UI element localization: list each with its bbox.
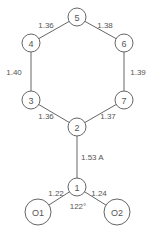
bond-2-3-length: 1.36 xyxy=(38,112,54,121)
bond-1-2-length: 1.53 A xyxy=(81,153,104,162)
atom-7-label: 7 xyxy=(121,96,126,106)
atom-6-label: 6 xyxy=(121,39,126,49)
bond-3-4-length: 1.40 xyxy=(6,68,22,77)
angle-1-label: 122° xyxy=(70,202,87,211)
atom-o1: O1 xyxy=(25,199,51,225)
bond-4-5-length: 1.36 xyxy=(38,21,54,30)
bond-5-6-length: 1.38 xyxy=(97,21,113,30)
atom-1: 1 xyxy=(68,178,86,196)
molecular-structure-diagram: 5 4 6 3 7 2 1 O1 O2 1.36 1.38 1.40 1.39 … xyxy=(0,0,153,236)
atom-2: 2 xyxy=(68,118,86,136)
atom-2-label: 2 xyxy=(74,123,79,133)
atom-o1-label: O1 xyxy=(32,208,44,218)
bond-1-o2-length: 1.24 xyxy=(91,189,107,198)
diagram-canvas: 5 4 6 3 7 2 1 O1 O2 1.36 1.38 1.40 1.39 … xyxy=(0,0,153,236)
atom-5-label: 5 xyxy=(74,13,79,23)
bond-6-7-length: 1.39 xyxy=(130,68,146,77)
atom-o2-label: O2 xyxy=(111,208,123,218)
atom-6: 6 xyxy=(115,34,133,52)
atom-4-label: 4 xyxy=(28,39,33,49)
atom-3-label: 3 xyxy=(28,96,33,106)
atom-5: 5 xyxy=(68,8,86,26)
atom-1-label: 1 xyxy=(74,183,79,193)
atom-7: 7 xyxy=(115,91,133,109)
atom-4: 4 xyxy=(22,34,40,52)
bond-2-7-length: 1.37 xyxy=(100,112,116,121)
atom-3: 3 xyxy=(22,91,40,109)
bond-1-o1-length: 1.22 xyxy=(48,189,64,198)
atom-o2: O2 xyxy=(104,199,130,225)
